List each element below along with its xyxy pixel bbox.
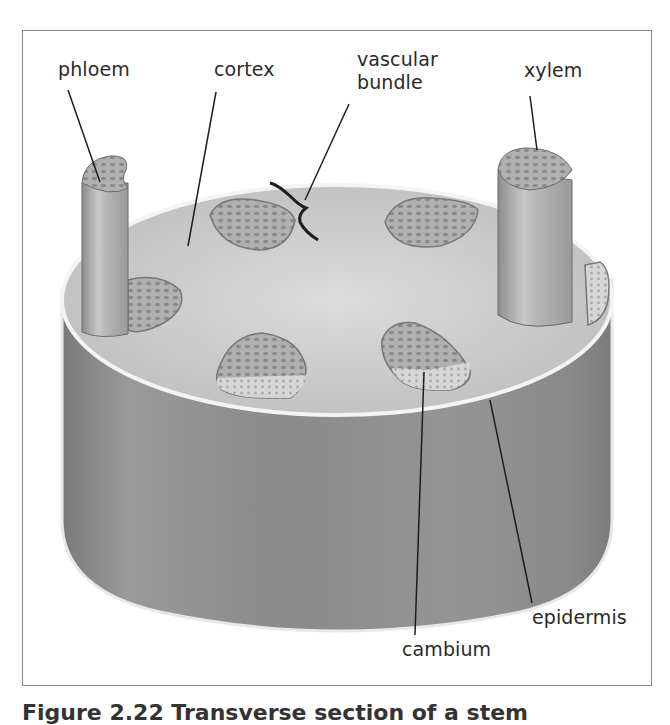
label-vascular-bundle-line2: bundle: [357, 71, 423, 94]
xylem-column: [498, 148, 572, 326]
phloem-column: [82, 156, 128, 337]
label-cambium: cambium: [402, 638, 491, 661]
label-phloem: phloem: [58, 58, 130, 81]
label-cortex: cortex: [214, 58, 275, 81]
label-vascular-bundle-line1: vascular: [357, 48, 438, 71]
label-xylem: xylem: [524, 59, 582, 82]
xylem-leader-line: [530, 96, 537, 150]
phloem-leader-line: [68, 90, 100, 182]
figure-caption: Figure 2.22 Transverse section of a stem: [22, 700, 528, 725]
label-epidermis: epidermis: [532, 606, 627, 629]
